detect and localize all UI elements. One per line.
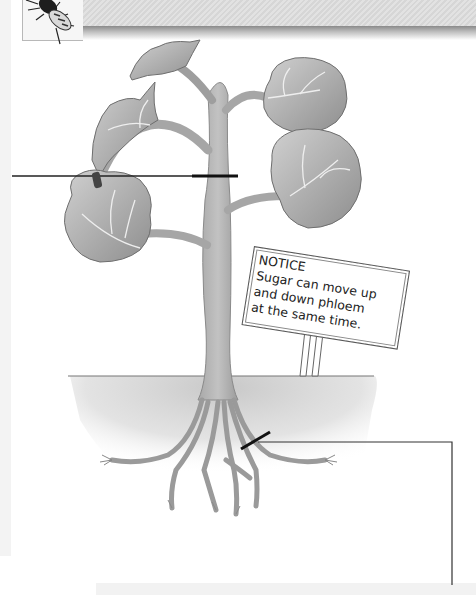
leaf-upper-right — [264, 58, 347, 133]
leaf-lower-left — [64, 170, 151, 262]
